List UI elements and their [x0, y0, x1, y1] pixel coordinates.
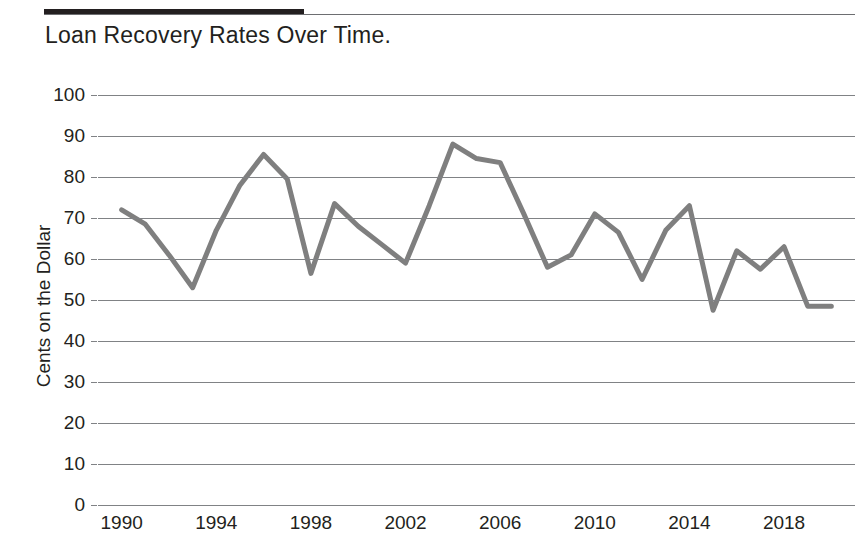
- x-axis-tick-label: 1998: [266, 513, 356, 532]
- y-axis-tick-label: 80: [0, 167, 85, 186]
- gridline: [98, 464, 855, 465]
- gridline: [98, 136, 855, 137]
- gridline: [98, 95, 855, 96]
- y-axis-tick-mark: [91, 341, 97, 342]
- y-axis-tick-mark: [91, 382, 97, 383]
- series-polyline: [122, 144, 832, 310]
- x-axis-tick-label: 2018: [739, 513, 829, 532]
- gridline: [98, 218, 855, 219]
- y-axis-tick-label: 50: [0, 290, 85, 309]
- x-axis-tick-label: 1994: [171, 513, 261, 532]
- header-rule: [0, 6, 863, 18]
- y-axis-tick-label: 20: [0, 413, 85, 432]
- chart-title: Loan Recovery Rates Over Time.: [45, 22, 391, 49]
- gridline: [98, 300, 855, 301]
- gridline: [98, 177, 855, 178]
- x-axis-tick-label: 2006: [455, 513, 545, 532]
- x-axis-tick-label: 1990: [77, 513, 167, 532]
- x-axis-tick-label: 2014: [644, 513, 734, 532]
- y-axis-tick-mark: [91, 177, 97, 178]
- y-axis-tick-label: 0: [0, 495, 85, 514]
- gridline: [98, 505, 855, 506]
- gridline: [98, 382, 855, 383]
- y-axis-tick-label: 40: [0, 331, 85, 350]
- header-rule-thin: [44, 14, 855, 15]
- y-axis-tick-label: 100: [0, 85, 85, 104]
- y-axis-tick-label: 10: [0, 454, 85, 473]
- chart-figure: Loan Recovery Rates Over Time. Cents on …: [0, 0, 863, 559]
- y-axis-tick-mark: [91, 505, 97, 506]
- gridline: [98, 341, 855, 342]
- gridline: [98, 423, 855, 424]
- x-axis-tick-label: 2010: [550, 513, 640, 532]
- gridline: [98, 259, 855, 260]
- y-axis-tick-label: 60: [0, 249, 85, 268]
- y-axis-tick-mark: [91, 95, 97, 96]
- y-axis-tick-label: 70: [0, 208, 85, 227]
- x-axis-tick-label: 2002: [361, 513, 451, 532]
- y-axis-tick-mark: [91, 136, 97, 137]
- y-axis-tick-mark: [91, 218, 97, 219]
- y-axis-tick-mark: [91, 464, 97, 465]
- y-axis-tick-mark: [91, 300, 97, 301]
- plot-area: 1009080706050403020100199019941998200220…: [98, 95, 855, 505]
- y-axis-tick-mark: [91, 259, 97, 260]
- y-axis-tick-label: 90: [0, 126, 85, 145]
- y-axis-tick-label: 30: [0, 372, 85, 391]
- y-axis-tick-mark: [91, 423, 97, 424]
